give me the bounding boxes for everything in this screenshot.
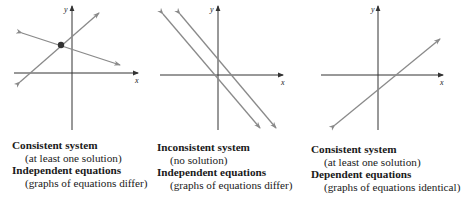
equation-type: Dependent equations <box>311 168 460 181</box>
equation-note: (graphs of equations identical) <box>311 181 460 194</box>
caption-panel-2: Inconsistent system (no solution) Indepe… <box>157 141 293 191</box>
x-axis-label: x <box>280 78 285 87</box>
x-axis-label: x <box>439 78 444 87</box>
equation-type: Independent equations <box>157 166 293 179</box>
system-note: (at least one solution) <box>311 156 460 169</box>
equation-type: Independent equations <box>12 164 148 177</box>
system-type: Consistent system <box>12 139 148 152</box>
x-axis-label: x <box>134 76 139 85</box>
graph-consistent-dependent: x y <box>321 5 444 130</box>
system-type: Inconsistent system <box>157 141 293 154</box>
line-2 <box>180 14 276 128</box>
y-axis-label: y <box>370 5 375 14</box>
intersection-point <box>58 42 64 48</box>
y-axis-label: y <box>209 5 214 14</box>
equation-note: (graphs of equations differ) <box>12 177 148 190</box>
y-axis-label: y <box>63 5 68 14</box>
caption-panel-3: Consistent system (at least one solution… <box>311 143 460 193</box>
system-note: (at least one solution) <box>12 152 148 165</box>
system-note: (no solution) <box>157 154 293 167</box>
system-type: Consistent system <box>311 143 460 156</box>
coincident-line <box>335 39 440 125</box>
line-1 <box>163 14 260 128</box>
graph-consistent-independent: x y <box>14 5 139 130</box>
graph-inconsistent: x y <box>160 5 285 130</box>
caption-panel-1: Consistent system (at least one solution… <box>12 139 148 189</box>
equation-note: (graphs of equations differ) <box>157 179 293 192</box>
